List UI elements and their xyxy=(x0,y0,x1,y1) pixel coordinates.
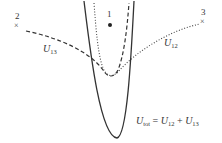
curve-u13-label: U13 xyxy=(43,44,57,56)
point-2-marker: × xyxy=(14,22,19,30)
point-1-dot xyxy=(108,23,112,27)
curve-u13-dashed xyxy=(26,3,129,76)
eq-lhs-sub: tot xyxy=(143,120,150,127)
eq-t1-main: U xyxy=(161,115,168,126)
point-3-label: 3 xyxy=(201,8,206,17)
point-1-label: 1 xyxy=(107,10,112,19)
total-energy-equation: Utot = U12 + U13 xyxy=(136,116,199,128)
eq-t2-sub: 13 xyxy=(192,120,199,127)
eq-plus: + xyxy=(177,115,183,126)
u13-sub: 13 xyxy=(50,48,57,55)
point-2-label: 2 xyxy=(15,12,20,21)
curve-u12-label: U12 xyxy=(164,38,178,50)
eq-equals: = xyxy=(153,115,159,126)
point-3-marker: × xyxy=(200,18,205,26)
curve-utot-solid xyxy=(84,1,134,138)
eq-t1-sub: 12 xyxy=(168,120,175,127)
u12-sub: 12 xyxy=(171,42,178,49)
